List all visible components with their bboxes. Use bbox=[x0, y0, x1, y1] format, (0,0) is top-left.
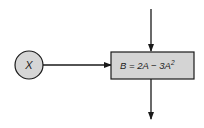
process-box: B = 2A − 3A2 bbox=[111, 52, 194, 79]
input-node-label: X bbox=[24, 59, 33, 71]
input-node: X bbox=[15, 51, 43, 79]
equation-text: B = 2A − 3A bbox=[120, 60, 171, 71]
svg-text:B = 2A − 3A2: B = 2A − 3A2 bbox=[120, 59, 175, 71]
equation-exponent: 2 bbox=[170, 59, 175, 66]
flow-diagram: X B = 2A − 3A2 bbox=[0, 0, 204, 128]
